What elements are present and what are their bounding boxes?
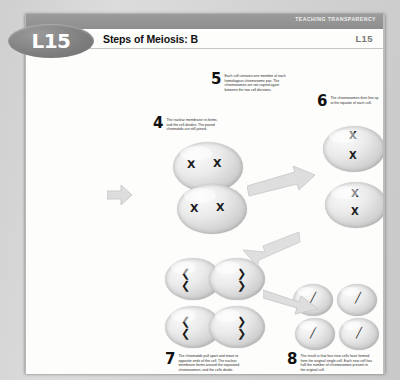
step-text: Each cell contains one member of each ho… bbox=[224, 74, 291, 92]
chromosome-glyph: X bbox=[349, 130, 357, 141]
daughter-cell: ╱ bbox=[295, 318, 335, 350]
page-code: L15 bbox=[355, 33, 373, 44]
chromatid-glyph: ❮ bbox=[181, 279, 190, 292]
cell-group-step7: ❮ ❮ ❯ ❯ ❮ ❮ ❯ ❯ bbox=[165, 258, 269, 352]
chromatid-glyph: ❯ bbox=[237, 279, 246, 292]
step-6: 6 The chromosomes then line up at the eq… bbox=[317, 96, 379, 107]
daughter-cell: ╱ bbox=[337, 284, 377, 316]
chromosome-glyph: X bbox=[187, 158, 195, 171]
chromatid-glyph: ❯ bbox=[237, 327, 246, 340]
step-4: 4 The nuclear membrane re-forms, and the… bbox=[153, 118, 223, 132]
chromosome-glyph: X bbox=[351, 206, 359, 217]
step-8: 8 The result is that four new cells have… bbox=[287, 354, 373, 372]
cell-illustration: X X bbox=[325, 182, 385, 228]
step-text: The nuclear membrane re-forms, and the c… bbox=[166, 118, 223, 132]
header-bar: TEACHING TRANSPARENCY bbox=[25, 14, 385, 29]
flow-arrow-step7-to-step8 bbox=[263, 282, 319, 316]
flow-arrow-into-step4 bbox=[107, 184, 133, 206]
chromosome-glyph: X bbox=[190, 202, 198, 215]
step-7: 7 The chromatids pull apart and move to … bbox=[165, 354, 249, 372]
chromosome-glyph: X bbox=[216, 201, 224, 214]
step-number: 5 bbox=[211, 74, 221, 92]
step-number: 6 bbox=[317, 96, 327, 107]
step-text: The chromatids pull apart and move to op… bbox=[178, 354, 249, 372]
chromatid-glyph: ❮ bbox=[181, 327, 190, 340]
chromosome-glyph: ╱ bbox=[355, 292, 361, 303]
teaching-transparency-label: TEACHING TRANSPARENCY bbox=[295, 16, 376, 22]
daughter-cell: ╱ bbox=[339, 318, 379, 350]
cell-illustration: X X bbox=[177, 184, 247, 234]
dividing-cell-pair: ❮ ❮ ❯ ❯ bbox=[165, 306, 265, 348]
flow-arrow-step4-to-step6 bbox=[247, 166, 317, 200]
transparency-page: TEACHING TRANSPARENCY Steps of Meiosis: … bbox=[25, 14, 385, 374]
step-5: 5 Each cell contains one member of each … bbox=[211, 74, 291, 92]
step-text: The chromosomes then line up at the equa… bbox=[330, 96, 379, 107]
flow-arrow-step6-to-step7 bbox=[241, 228, 301, 268]
chromosome-glyph: X bbox=[213, 157, 221, 170]
chromosome-glyph: ╱ bbox=[310, 327, 316, 338]
cell-group-step6: X X X X bbox=[323, 126, 385, 232]
step-number: 7 bbox=[165, 354, 175, 372]
lesson-badge-label: L15 bbox=[31, 29, 70, 53]
chromosome-glyph: ╱ bbox=[356, 327, 362, 338]
chromosome-glyph: X bbox=[349, 150, 357, 161]
step-number: 4 bbox=[153, 118, 163, 132]
cell-illustration: ❯ ❯ bbox=[209, 306, 265, 348]
page-title: Steps of Meiosis: B bbox=[103, 33, 198, 45]
chromosome-glyph: X bbox=[351, 188, 359, 199]
step-text: The result is that four new cells have f… bbox=[300, 354, 373, 372]
cell-illustration: X X bbox=[323, 126, 385, 172]
step-number: 8 bbox=[287, 354, 297, 372]
lesson-badge: L15 bbox=[8, 24, 94, 58]
